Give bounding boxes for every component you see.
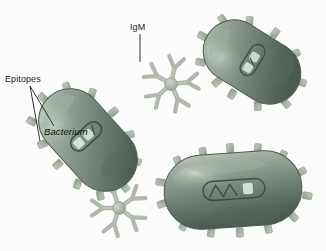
bacterium-bottom-right xyxy=(153,138,315,243)
igm-pentamer-upper xyxy=(138,52,204,116)
credit-precision-graphics: Precision Graphics xyxy=(316,247,326,251)
label-epitopes: Epitopes xyxy=(5,74,41,84)
bacterium-top-right xyxy=(178,0,323,129)
illustration-figure: Epitopes IgM Bacterium Precision Graphic… xyxy=(0,0,326,251)
label-igm: IgM xyxy=(130,22,145,32)
label-bacterium: Bacterium xyxy=(44,126,88,137)
bacterium-left xyxy=(11,62,163,217)
